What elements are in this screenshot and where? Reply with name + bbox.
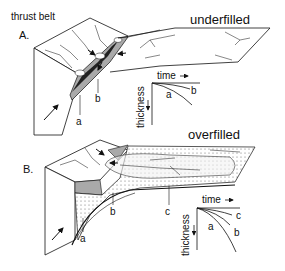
panel-a-marker-a: a xyxy=(76,117,82,127)
panel-b-curve-c: c xyxy=(236,211,241,221)
panel-b-curve-b: b xyxy=(234,228,240,238)
panel-a-inset-time-label: time xyxy=(157,71,176,81)
thrust-belt-label: thrust belt xyxy=(11,12,55,22)
panel-b-block xyxy=(45,140,255,255)
panel-a-curve-b: b xyxy=(191,86,197,96)
panel-b-letter: B. xyxy=(23,164,33,175)
panel-b-inset-graph xyxy=(194,200,240,252)
panel-b-curve-a: a xyxy=(208,222,214,232)
panel-a-marker-b: b xyxy=(95,94,101,104)
panel-a-inset-thickness-label: thickness xyxy=(136,86,146,128)
panel-b-inset-time-label: time xyxy=(202,195,221,205)
panel-a-inset-graph xyxy=(148,76,200,125)
panel-b-marker-b: b xyxy=(110,207,116,217)
overfilled-label: overfilled xyxy=(188,128,240,141)
panel-b-marker-a: a xyxy=(80,234,86,244)
foreland-basin-figure: thrust belt A. underfilled a b time thic… xyxy=(0,0,285,271)
underfilled-label: underfilled xyxy=(190,13,250,26)
panel-b-inset-thickness-label: thickness xyxy=(181,214,191,256)
panel-a-curve-a: a xyxy=(166,90,172,100)
panel-a-letter: A. xyxy=(19,30,29,41)
panel-b-marker-c: c xyxy=(165,207,170,217)
block-diagrams xyxy=(0,0,285,271)
